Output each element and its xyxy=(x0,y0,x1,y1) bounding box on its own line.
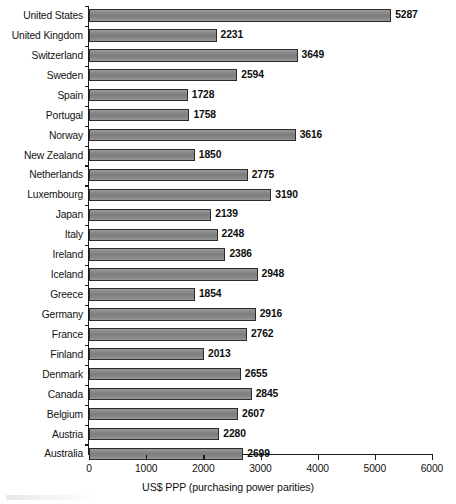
bar-row: Japan2139 xyxy=(89,205,432,225)
bar-value-label: 3616 xyxy=(300,128,323,142)
y-axis-tick xyxy=(85,325,89,326)
bar xyxy=(89,428,219,440)
bar xyxy=(89,9,391,21)
y-axis-tick xyxy=(85,265,89,266)
category-label: Luxembourg xyxy=(27,186,83,203)
x-axis-tick-label: 5000 xyxy=(364,462,387,476)
x-axis-tick xyxy=(375,455,376,460)
bar-value-label: 2013 xyxy=(208,347,231,361)
bar xyxy=(89,288,195,300)
x-axis-tick-label: 0 xyxy=(86,462,92,476)
bar xyxy=(89,169,248,181)
y-axis-tick xyxy=(85,185,89,186)
x-axis-tick-label: 2000 xyxy=(192,462,215,476)
bar xyxy=(89,229,218,241)
category-label: Finland xyxy=(50,346,83,363)
bar xyxy=(89,109,189,121)
y-axis-tick xyxy=(85,385,89,386)
y-axis-tick xyxy=(85,146,89,147)
bar-value-label: 2231 xyxy=(221,28,244,42)
bar-value-label: 2139 xyxy=(215,207,238,221)
y-axis-tick xyxy=(85,345,89,346)
bar xyxy=(89,268,258,280)
bar-row: Italy2248 xyxy=(89,225,432,245)
x-axis-tick xyxy=(318,455,319,460)
bar-row: Luxembourg3190 xyxy=(89,185,432,205)
bar-value-label: 2845 xyxy=(256,387,279,401)
category-label: Iceland xyxy=(51,266,83,283)
category-label: Switzerland xyxy=(31,47,83,64)
bar xyxy=(89,308,256,320)
bar xyxy=(89,29,217,41)
bar xyxy=(89,189,271,201)
category-label: New Zealand xyxy=(24,147,83,164)
bar-value-label: 2386 xyxy=(229,247,252,261)
y-axis-tick xyxy=(85,365,89,366)
bar-value-label: 2762 xyxy=(251,327,274,341)
bar xyxy=(89,248,225,260)
bar-value-label: 2699 xyxy=(247,447,270,461)
y-axis-tick xyxy=(85,405,89,406)
bar-row: Iceland2948 xyxy=(89,265,432,285)
bar xyxy=(89,69,237,81)
category-label: Sweden xyxy=(47,67,83,84)
y-axis-tick xyxy=(85,225,89,226)
category-label: Japan xyxy=(56,206,83,223)
bar-value-label: 2248 xyxy=(222,227,245,241)
y-axis-tick xyxy=(85,26,89,27)
bar xyxy=(89,149,195,161)
x-axis-tick xyxy=(432,455,433,460)
x-axis-title: US$ PPP (purchasing power parities) xyxy=(0,481,456,493)
category-label: Austria xyxy=(52,426,83,443)
category-label: Denmark xyxy=(42,366,83,383)
x-axis-tick xyxy=(146,455,147,460)
bar xyxy=(89,89,188,101)
bar-row: Ireland2386 xyxy=(89,245,432,265)
y-axis-tick xyxy=(85,6,89,7)
bar xyxy=(89,408,238,420)
category-label: Norway xyxy=(49,127,83,144)
y-axis-tick xyxy=(85,205,89,206)
bar-row: Greece1854 xyxy=(89,285,432,305)
bar xyxy=(89,448,243,460)
bar-value-label: 1758 xyxy=(193,108,216,122)
bar-value-label: 1850 xyxy=(199,148,222,162)
category-label: Portugal xyxy=(46,107,83,124)
bar-row: Switzerland3649 xyxy=(89,46,432,66)
bar xyxy=(89,388,252,400)
bar-value-label: 2607 xyxy=(242,407,265,421)
x-axis-tick-label: 4000 xyxy=(306,462,329,476)
category-label: Italy xyxy=(65,226,83,243)
bar xyxy=(89,129,296,141)
y-axis-tick xyxy=(85,305,89,306)
y-axis-tick xyxy=(85,86,89,87)
bar-row: Canada2845 xyxy=(89,385,432,405)
bar-value-label: 1854 xyxy=(199,287,222,301)
bar-value-label: 3649 xyxy=(302,48,325,62)
x-axis-tick xyxy=(203,455,204,460)
category-label: Ireland xyxy=(53,246,83,263)
bar-row: United States5287 xyxy=(89,6,432,26)
bar-row: Spain1728 xyxy=(89,86,432,106)
y-axis-tick xyxy=(85,285,89,286)
category-label: Australia xyxy=(44,445,83,462)
bar-row: Finland2013 xyxy=(89,345,432,365)
bar-row: Norway3616 xyxy=(89,126,432,146)
bar-value-label: 2594 xyxy=(241,68,264,82)
y-axis-tick xyxy=(85,245,89,246)
x-axis-tick-label: 3000 xyxy=(249,462,272,476)
bar xyxy=(89,209,211,221)
y-axis-tick xyxy=(85,46,89,47)
x-axis-tick-label: 6000 xyxy=(421,462,444,476)
bar xyxy=(89,49,298,61)
bar-row: France2762 xyxy=(89,325,432,345)
bar-row: Portugal1758 xyxy=(89,106,432,126)
bar-row: Belgium2607 xyxy=(89,405,432,425)
category-label: Belgium xyxy=(47,406,83,423)
bar-value-label: 3190 xyxy=(275,188,298,202)
scan-artifact xyxy=(6,495,98,500)
bar xyxy=(89,348,204,360)
bar-value-label: 1728 xyxy=(192,88,215,102)
category-label: United Kingdom xyxy=(12,27,83,44)
category-label: United States xyxy=(23,7,83,24)
